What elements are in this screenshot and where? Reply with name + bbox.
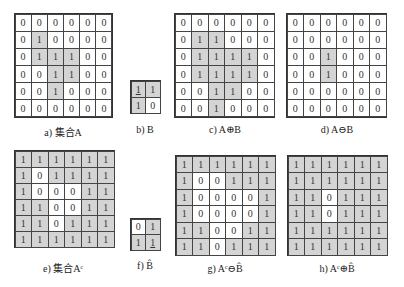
- grid-cell: 0: [95, 82, 112, 100]
- cell-value: 1: [70, 154, 75, 165]
- grid-cell: 1: [258, 172, 276, 190]
- cell-value: 1: [103, 154, 108, 165]
- grid-d: 000000000000001000001000000000000000: [286, 13, 387, 118]
- grid-cell: 1: [258, 205, 276, 223]
- grid-cell: 1: [208, 31, 226, 49]
- cell-value: 0: [181, 51, 186, 62]
- cell-value: 1: [360, 192, 365, 203]
- grid-cell: 0: [79, 14, 96, 32]
- grid-cell: 0: [257, 99, 275, 117]
- cell-value: 0: [37, 86, 42, 97]
- cell-value: 1: [376, 208, 381, 219]
- cell-value: 1: [54, 170, 59, 181]
- cell-value: 1: [248, 175, 253, 186]
- cell-value: 1: [103, 202, 108, 213]
- cell-value: 0: [293, 86, 298, 97]
- grid-cell: 0: [31, 65, 48, 83]
- grid-cell: 1: [81, 151, 99, 168]
- cell-value: 0: [309, 103, 314, 114]
- grid-cell: 1: [242, 172, 260, 190]
- cell-value: 0: [293, 51, 298, 62]
- cell-value: 0: [293, 17, 298, 28]
- grid-cell: 1: [97, 215, 115, 232]
- cell-value: 1: [182, 208, 187, 219]
- grid-cell: 1: [224, 82, 242, 100]
- grid-cell: 1: [191, 65, 209, 83]
- grid-cell: 0: [48, 199, 66, 216]
- grid-cell: 1: [258, 222, 276, 240]
- cell-value: 1: [264, 241, 269, 252]
- cell-value: 1: [21, 170, 26, 181]
- grid-cell: 0: [63, 99, 80, 117]
- cell-value: 0: [263, 17, 268, 28]
- cell-value: 1: [136, 84, 141, 95]
- cell-value: 0: [215, 175, 220, 186]
- cell-value: 1: [214, 103, 219, 114]
- grid-cell: 0: [241, 31, 259, 49]
- grid-cell: 0: [321, 205, 339, 223]
- cell-value: 1: [264, 159, 269, 170]
- cell-value: 0: [101, 34, 106, 45]
- cell-value: 1: [326, 51, 331, 62]
- cell-value: 0: [375, 86, 380, 97]
- grid-cell: 1: [242, 156, 260, 174]
- cell-value: 0: [263, 103, 268, 114]
- grid-cell: 1: [258, 238, 276, 256]
- cell-value: 1: [376, 192, 381, 203]
- grid-cell: 1: [370, 172, 388, 190]
- grid-cell: 0: [242, 189, 260, 207]
- cell-value: 0: [21, 34, 26, 45]
- grid-cell: 0: [48, 215, 66, 232]
- grid-cell: 0: [31, 82, 48, 100]
- grid-cell: 1: [370, 222, 388, 240]
- grid-cell: 0: [15, 14, 32, 32]
- cell-value: 1: [87, 170, 92, 181]
- cell-value: 1: [360, 241, 365, 252]
- grid-cell: 1: [15, 215, 33, 232]
- cell-value: 1: [214, 69, 219, 80]
- grid-cell: 1: [288, 205, 306, 223]
- grid-cell: 1: [337, 172, 355, 190]
- grid-f: 0111: [130, 218, 161, 251]
- cell-value: 0: [247, 103, 252, 114]
- grid-cell: 1: [81, 199, 99, 216]
- grid-cell: 0: [95, 99, 112, 117]
- cell-value: 1: [103, 218, 108, 229]
- cell-value: 1: [37, 218, 42, 229]
- cell-value: 0: [85, 17, 90, 28]
- grid-cell: 0: [15, 31, 32, 49]
- cell-value: 0: [197, 103, 202, 114]
- grid-cell: 0: [175, 48, 193, 66]
- cell-value: 0: [231, 192, 236, 203]
- cell-value: 1: [376, 225, 381, 236]
- grid-g: 111111100111100001100001110011110111: [175, 155, 276, 256]
- cell-value: 1: [182, 241, 187, 252]
- grid-cell: 1: [31, 231, 49, 248]
- grid-cell: 0: [63, 14, 80, 32]
- cell-value: 0: [309, 34, 314, 45]
- cell-value: 0: [359, 17, 364, 28]
- cell-value: 1: [310, 241, 315, 252]
- grid-a: 000000010000011100001100001000000000: [14, 13, 113, 118]
- grid-cell: 1: [81, 215, 99, 232]
- cell-value: 1: [215, 159, 220, 170]
- cell-value: 1: [327, 175, 332, 186]
- grid-cell: 0: [353, 14, 371, 32]
- grid-cell: 0: [15, 99, 32, 117]
- cell-value: 1: [70, 170, 75, 181]
- cell-value: 0: [85, 86, 90, 97]
- cell-value: 1: [87, 202, 92, 213]
- cell-value: 1: [310, 208, 315, 219]
- grid-cell: 1: [31, 199, 49, 216]
- cell-value: 0: [359, 34, 364, 45]
- grid-cell: 0: [15, 82, 32, 100]
- grid-cell: 0: [175, 99, 193, 117]
- grid-cell: 0: [303, 82, 321, 100]
- cell-value: 1: [247, 69, 252, 80]
- grid-cell: 1: [208, 82, 226, 100]
- cell-value: 0: [326, 17, 331, 28]
- cell-value: 0: [54, 218, 59, 229]
- grid-cell: 1: [192, 156, 210, 174]
- grid-cell: 1: [81, 183, 99, 200]
- cell-value: 0: [263, 34, 268, 45]
